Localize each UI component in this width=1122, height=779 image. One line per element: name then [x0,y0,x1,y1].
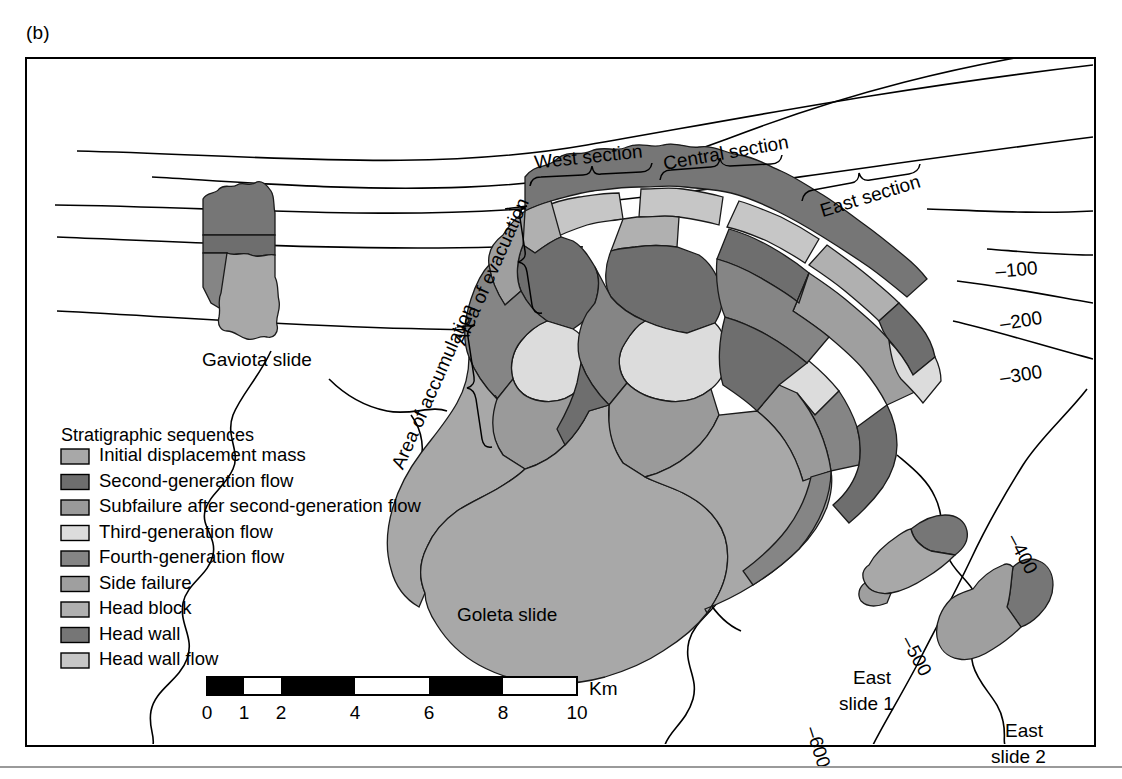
scale-bar-segment [355,677,429,695]
legend-swatch [61,653,89,668]
legend-swatch [61,628,89,643]
map-label-gaviota: Gaviota slide [202,349,312,370]
scale-bar-tick: 6 [424,702,435,723]
map-label-east-slide-2-line2: slide 2 [991,746,1046,767]
scale-bar-tick: 1 [239,702,250,723]
legend-title: Stratigraphic sequences [61,425,254,445]
legend-item-label: Third-generation flow [99,521,273,542]
scale-bar-tick: 4 [350,702,361,723]
map-label-contour-300: –300 [998,361,1043,388]
section-labels: West sectionCentral sectionEast section [533,131,922,221]
legend: Stratigraphic sequences Initial displace… [55,427,475,677]
legend-swatch [61,551,89,566]
scale-bar-segment [207,677,244,695]
scale-bar: 01246810 Km [207,669,627,739]
scale-bar-segments [207,677,577,695]
map-label-central-section: Central section [662,131,790,174]
map-label-contour-600: –600 [802,724,835,771]
legend-item-label: Initial displacement mass [99,444,306,465]
legend-swatch [61,577,89,592]
legend-item: Initial displacement mass [61,444,306,465]
scale-bar-tick: 8 [498,702,509,723]
map-frame: Gaviota slideGoleta slideEastslide 1East… [25,57,1096,747]
legend-item-label: Subfailure after second-generation flow [99,495,422,516]
legend-item: Side failure [61,572,192,593]
legend-item: Head wall flow [61,648,219,669]
legend-item: Fourth-generation flow [61,546,285,567]
map-label-east-slide-2-line1: East [1005,720,1044,741]
map-label-contour-500: –500 [898,632,936,679]
legend-item-label: Side failure [99,572,192,593]
legend-rows: Initial displacement massSecond-generati… [61,444,422,669]
map-label-contour-200: –200 [998,307,1043,334]
figure-panel-b: (b) [0,0,1122,779]
legend-item-label: Second-generation flow [99,470,294,491]
legend-item: Third-generation flow [61,521,273,542]
legend-swatch [61,449,89,464]
scale-bar-tick-labels: 01246810 [202,702,588,723]
map-label-contour-100: –100 [994,257,1038,282]
legend-item: Subfailure after second-generation flow [61,495,422,516]
scale-bar-unit: Km [589,678,618,699]
map-label-east-slide-1-line2: slide 1 [839,693,894,714]
panel-label: (b) [26,22,50,44]
scale-bar-tick: 0 [202,702,213,723]
legend-item: Head wall [61,623,180,644]
map-label-east-section: East section [818,171,923,221]
scale-bar-segment [503,677,577,695]
map-label-west-section: West section [533,140,643,172]
contour-labels: –100–200–300–400–500–600 [802,257,1044,770]
legend-item-label: Head wall [99,623,180,644]
legend-swatch [61,500,89,515]
legend-swatch [61,602,89,617]
legend-swatch [61,526,89,541]
legend-item: Second-generation flow [61,470,294,491]
legend-item: Head block [61,597,192,618]
scale-bar-segment [244,677,281,695]
legend-swatch [61,475,89,490]
legend-item-label: Head block [99,597,192,618]
scale-bar-tick: 2 [276,702,287,723]
scale-bar-segment [281,677,355,695]
legend-item-label: Fourth-generation flow [99,546,285,567]
page-bottom-rule [0,766,1122,768]
scale-bar-segment [429,677,503,695]
map-label-contour-400: –400 [1004,530,1042,577]
map-label-east-slide-1-line1: East [853,667,892,688]
scale-bar-tick: 10 [566,702,587,723]
legend-item-label: Head wall flow [99,648,219,669]
